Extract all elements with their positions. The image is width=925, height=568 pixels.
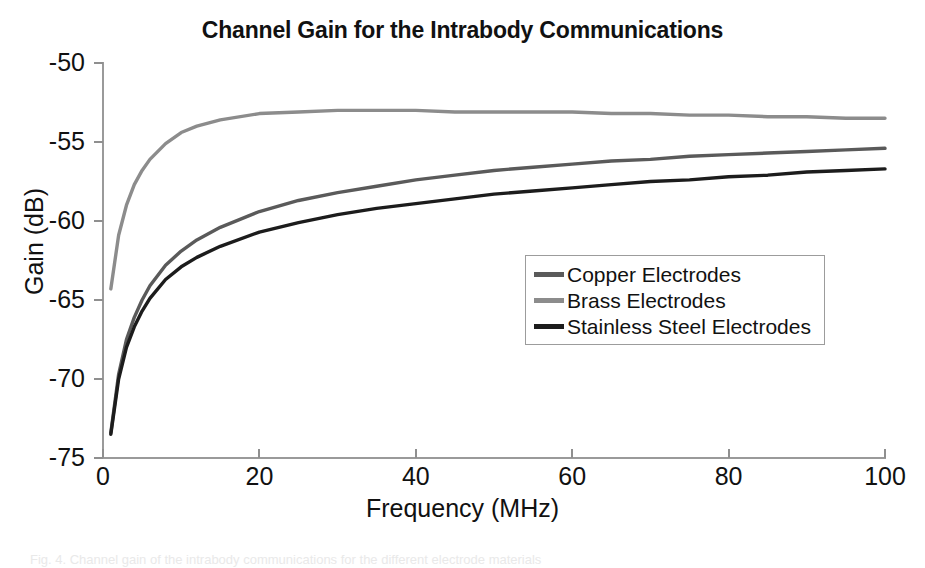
- x-tick-label: 20: [214, 464, 304, 489]
- y-tick: [94, 378, 103, 380]
- legend-item-label: Copper Electrodes: [567, 264, 741, 285]
- y-tick-label: -70: [15, 366, 85, 391]
- chart-title: Channel Gain for the Intrabody Communica…: [0, 17, 925, 44]
- y-tick-label: -50: [15, 50, 85, 75]
- legend-item[interactable]: Brass Electrodes: [534, 287, 824, 313]
- x-tick-label: 100: [840, 464, 925, 489]
- legend-color-swatch: [534, 324, 564, 329]
- legend-item-label: Brass Electrodes: [567, 290, 726, 311]
- y-tick: [94, 220, 103, 222]
- figure-caption: Fig. 4. Channel gain of the intrabody co…: [30, 552, 895, 568]
- legend-item-label: Stainless Steel Electrodes: [567, 316, 811, 337]
- x-tick-label: 80: [684, 464, 774, 489]
- legend-item[interactable]: Stainless Steel Electrodes: [534, 313, 824, 339]
- legend-item[interactable]: Copper Electrodes: [534, 261, 824, 287]
- y-tick: [94, 299, 103, 301]
- x-tick-label: 60: [527, 464, 617, 489]
- y-axis-title: Gain (dB): [20, 142, 49, 342]
- chart-legend: Copper ElectrodesBrass ElectrodesStainle…: [525, 255, 825, 345]
- x-axis-title: Frequency (MHz): [0, 494, 925, 523]
- legend-color-swatch: [534, 272, 564, 277]
- x-tick-label: 0: [58, 464, 148, 489]
- y-tick: [94, 62, 103, 64]
- y-tick: [94, 141, 103, 143]
- legend-color-swatch: [534, 298, 564, 303]
- x-tick-label: 40: [371, 464, 461, 489]
